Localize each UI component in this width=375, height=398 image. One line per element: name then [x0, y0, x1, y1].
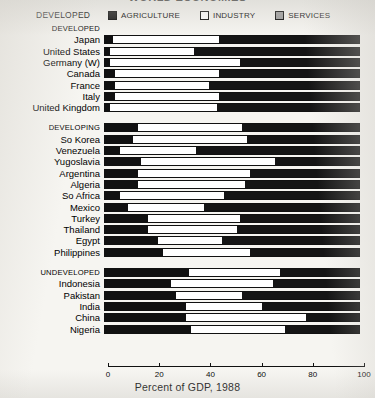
stacked-bar-france: [104, 81, 360, 90]
bar-segment-agriculture: [105, 280, 171, 287]
stacked-bar-undeveloped: [104, 268, 360, 277]
bar-segment-agriculture: [105, 36, 113, 43]
chart-row: Egypt: [0, 236, 375, 245]
bar-segment-agriculture: [105, 170, 138, 177]
stacked-bar-india: [104, 302, 360, 311]
row-label-philippines: Philippines: [0, 248, 104, 257]
chart-row: So Africa: [0, 191, 375, 200]
bar-segment-services: [245, 181, 359, 188]
bar-segment-services: [219, 70, 359, 77]
stacked-bar-mexico: [104, 203, 360, 212]
chart-row: Argentina: [0, 169, 375, 178]
bar-segment-services: [247, 136, 359, 143]
bar-segment-agriculture: [105, 314, 186, 321]
stacked-bar-china: [104, 313, 360, 322]
bar-segment-services: [224, 192, 359, 199]
bar-segment-agriculture: [105, 326, 191, 333]
chart-row: Germany (W): [0, 58, 375, 67]
x-axis-tick-label-20: 20: [155, 370, 164, 379]
stacked-bar-so-korea: [104, 135, 360, 144]
stacked-bar-italy: [104, 92, 360, 101]
bar-segment-services: [222, 237, 359, 244]
chart-row: Algeria: [0, 180, 375, 189]
chart-legend: DEVELOPED AGRICULTURE INDUSTRY SERVICES: [36, 9, 367, 21]
chart-row: France: [0, 81, 375, 90]
bar-segment-industry: [148, 226, 237, 233]
bar-segment-industry: [120, 192, 224, 199]
bar-segment-agriculture: [105, 82, 115, 89]
stacked-bar-indonesia: [104, 279, 360, 288]
row-label-egypt: Egypt: [0, 236, 104, 245]
chart-plot-area: DEVELOPEDJapanUnited StatesGermany (W)Ca…: [0, 24, 375, 364]
chart-title-strip: WORLD ECONOMIES: [0, 0, 375, 7]
chart-row: United Kingdom: [0, 103, 375, 112]
section-label-developed: DEVELOPED: [0, 24, 104, 33]
bar-segment-services: [204, 204, 359, 211]
row-label-mexico: Mexico: [0, 203, 104, 212]
bar-segment-services: [237, 226, 359, 233]
agriculture-swatch-icon: [108, 11, 117, 20]
bar-segment-services: [240, 215, 359, 222]
legend-label-services: SERVICES: [288, 11, 330, 20]
bar-segment-services: [273, 280, 359, 287]
row-label-united-states: United States: [0, 47, 104, 56]
bar-segment-industry: [141, 158, 276, 165]
bar-segment-agriculture: [105, 269, 189, 276]
bar-segment-industry: [163, 249, 249, 256]
x-axis-tick-label-40: 40: [206, 370, 215, 379]
chart-row: Mexico: [0, 203, 375, 212]
industry-swatch-icon: [200, 11, 209, 20]
row-label-japan: Japan: [0, 35, 104, 44]
chart-row: Turkey: [0, 214, 375, 223]
row-label-united-kingdom: United Kingdom: [0, 103, 104, 112]
bar-segment-services: [240, 59, 359, 66]
bar-segment-services: [196, 147, 359, 154]
bar-segment-agriculture: [105, 215, 148, 222]
row-label-china: China: [0, 313, 104, 322]
bar-segment-services: [217, 104, 359, 111]
row-label-canada: Canada: [0, 69, 104, 78]
section-row-undeveloped: UNDEVELOPED: [0, 268, 375, 277]
stacked-bar-canada: [104, 69, 360, 78]
chart-row: Pakistan: [0, 291, 375, 300]
stacked-bar-turkey: [104, 214, 360, 223]
stacked-bar-venezuela: [104, 146, 360, 155]
bar-segment-services: [250, 249, 359, 256]
x-axis-tick-label-0: 0: [106, 370, 110, 379]
bar-segment-services: [250, 170, 359, 177]
chart-row: Nigeria: [0, 325, 375, 334]
bar-segment-agriculture: [105, 136, 133, 143]
bar-segment-services: [262, 303, 359, 310]
bar-segment-agriculture: [105, 226, 148, 233]
x-axis-tick-80: [313, 363, 314, 367]
row-label-indonesia: Indonesia: [0, 279, 104, 288]
bar-segment-industry: [158, 237, 222, 244]
stacked-bar-japan: [104, 35, 360, 44]
chart-row: India: [0, 302, 375, 311]
bar-segment-services: [242, 292, 359, 299]
bar-segment-industry: [138, 124, 242, 131]
bar-segment-industry: [115, 70, 219, 77]
chart-row: Indonesia: [0, 279, 375, 288]
bar-segment-services: [194, 48, 359, 55]
bar-segment-agriculture: [105, 292, 176, 299]
bar-segment-agriculture: [105, 237, 158, 244]
chart-row: So Korea: [0, 135, 375, 144]
bar-segment-industry: [148, 215, 239, 222]
bar-segment-agriculture: [105, 70, 115, 77]
bar-segment-industry: [110, 104, 217, 111]
stacked-bar-thailand: [104, 225, 360, 234]
bar-segment-industry: [176, 292, 242, 299]
row-label-germany-w: Germany (W): [0, 58, 104, 67]
legend-label-agriculture: AGRICULTURE: [121, 11, 180, 20]
section-label-undeveloped: UNDEVELOPED: [0, 268, 104, 277]
row-label-yugoslavia: Yugoslavia: [0, 157, 104, 166]
chart-row: Philippines: [0, 248, 375, 257]
section-row-developed: DEVELOPED: [0, 24, 375, 33]
row-label-nigeria: Nigeria: [0, 325, 104, 334]
x-axis-tick-label-80: 80: [308, 370, 317, 379]
bar-segment-services: [275, 158, 359, 165]
bar-segment-agriculture: [105, 204, 128, 211]
stacked-bar-germany-w: [104, 58, 360, 67]
stacked-bar-so-africa: [104, 191, 360, 200]
